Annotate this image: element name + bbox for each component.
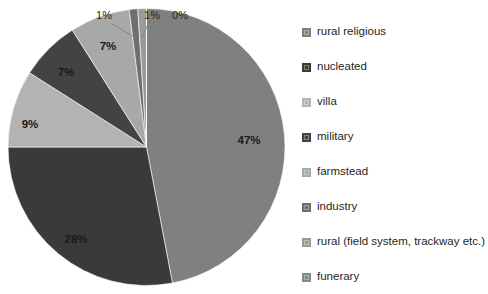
- pie-slice-group: [8, 9, 285, 286]
- legend-swatch-icon: [301, 27, 312, 38]
- legend-item-villa[interactable]: villa: [301, 94, 487, 129]
- legend-item-rural-religious[interactable]: rural religious: [301, 24, 487, 59]
- legend-item-label: nucleated: [317, 59, 367, 73]
- legend-swatch-icon: [301, 202, 312, 213]
- legend-item-nucleated[interactable]: nucleated: [301, 59, 487, 94]
- legend-item-label: villa: [317, 94, 337, 108]
- legend-item-label: funerary: [317, 269, 359, 283]
- callout-value-label: 1%: [96, 9, 112, 21]
- legend-item-farmstead[interactable]: farmstead: [301, 164, 487, 199]
- legend-item-funerary[interactable]: funerary: [301, 269, 487, 294]
- slice-value-label: 28%: [64, 233, 87, 245]
- pie-chart-figure: 47%28%9%7%7% 1%1%0% rural religiousnucle…: [0, 0, 488, 294]
- callout-value-label: 1%: [144, 9, 160, 21]
- chart-legend: rural religiousnucleatedvillamilitaryfar…: [301, 24, 487, 294]
- legend-swatch-icon: [301, 132, 312, 143]
- legend-item-military[interactable]: military: [301, 129, 487, 164]
- slice-value-label: 7%: [58, 66, 75, 78]
- legend-item-label: industry: [317, 199, 357, 213]
- legend-swatch-icon: [301, 62, 312, 73]
- slice-value-label: 9%: [22, 118, 39, 130]
- legend-item-label: military: [317, 129, 353, 143]
- legend-swatch-icon: [301, 167, 312, 178]
- legend-swatch-icon: [301, 237, 312, 248]
- pie-slice[interactable]: [8, 147, 172, 286]
- slice-value-label: 47%: [237, 134, 260, 146]
- legend-swatch-icon: [301, 272, 312, 283]
- legend-item-label: rural religious: [317, 24, 386, 38]
- pie-slice[interactable]: [147, 9, 285, 284]
- callout-value-label: 0%: [172, 9, 188, 21]
- slice-value-label: 7%: [100, 40, 117, 52]
- legend-swatch-icon: [301, 97, 312, 108]
- legend-item-label: farmstead: [317, 164, 368, 178]
- legend-item-label: rural (field system, trackway etc.): [317, 234, 485, 248]
- legend-item-rural-field-system-trackway-etc[interactable]: rural (field system, trackway etc.): [301, 234, 487, 269]
- legend-item-industry[interactable]: industry: [301, 199, 487, 234]
